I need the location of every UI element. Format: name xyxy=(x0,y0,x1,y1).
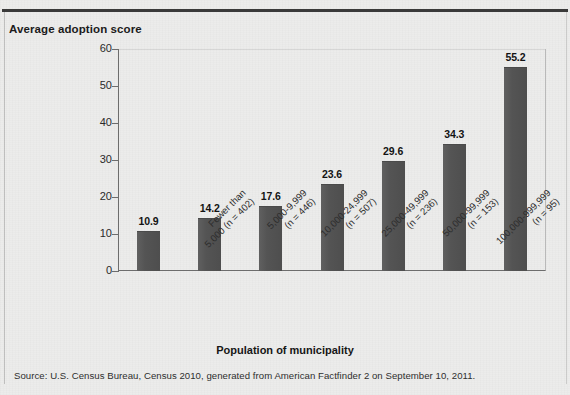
bar-value-label: 55.2 xyxy=(487,51,543,63)
bar-value-label: 34.3 xyxy=(426,128,482,140)
y-axis-tick-label: 20 xyxy=(50,190,112,202)
bar-value-label: 23.6 xyxy=(304,168,360,180)
y-axis-tick-row: 40 xyxy=(44,123,112,124)
figure-caption-cutoff xyxy=(8,0,548,8)
y-axis-tick-label: 40 xyxy=(50,116,112,128)
y-axis-tick-label: 60 xyxy=(50,42,112,54)
y-axis-tick-row: 10 xyxy=(44,234,112,235)
y-axis-tick-row: 0 xyxy=(44,271,112,272)
source-note: Source: U.S. Census Bureau, Census 2010,… xyxy=(14,370,475,381)
y-axis-tick-label: 50 xyxy=(50,79,112,91)
page-border-left xyxy=(4,12,5,384)
y-axis-title: Average adoption score xyxy=(9,23,142,35)
figure-container: Average adoption score 0102030405060 10.… xyxy=(0,0,570,395)
y-axis-tick-label: 10 xyxy=(50,227,112,239)
bar-value-label: 29.6 xyxy=(365,145,421,157)
x-axis-title: Population of municipality xyxy=(0,344,570,356)
y-axis-tick-label: 0 xyxy=(50,264,112,276)
y-axis-tick-row: 50 xyxy=(44,86,112,87)
top-rule xyxy=(2,9,568,12)
bar xyxy=(137,231,160,271)
y-axis-tick-row: 60 xyxy=(44,49,112,50)
y-axis-tick-label: 30 xyxy=(50,153,112,165)
bar-value-label: 10.9 xyxy=(121,215,177,227)
x-axis-category-labels: Fewer than5,000 (n = 402)5,000-9,999(n =… xyxy=(118,272,546,344)
page-border-right xyxy=(566,12,567,384)
y-axis-tick-row: 30 xyxy=(44,160,112,161)
y-axis-tick-row: 20 xyxy=(44,197,112,198)
